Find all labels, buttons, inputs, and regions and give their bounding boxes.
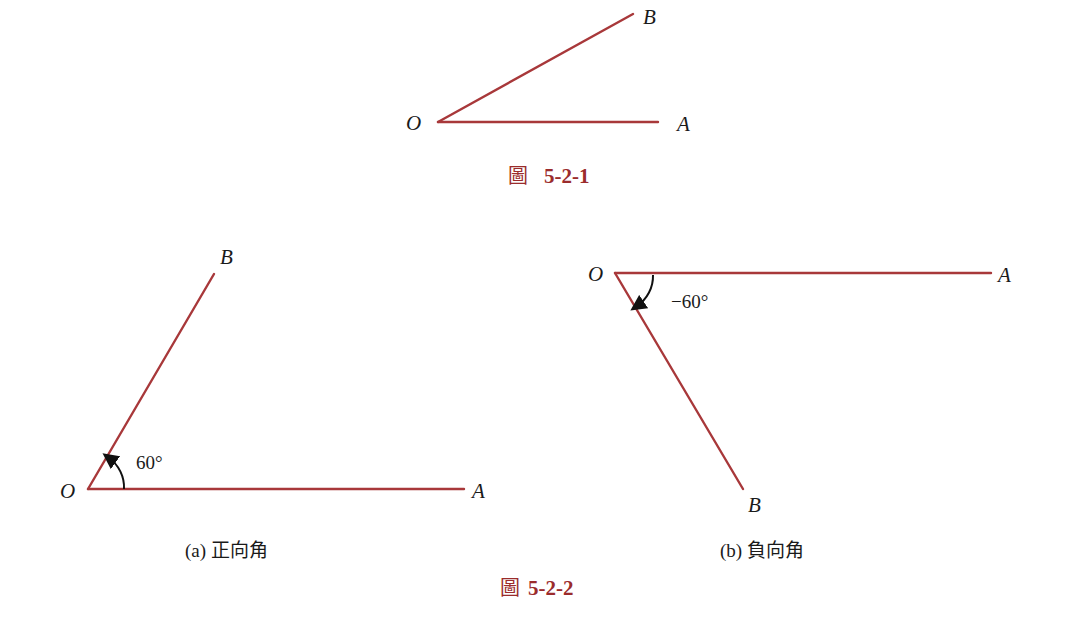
label-b: B — [643, 5, 656, 29]
panel-a-caption: (a) 正向角 — [185, 540, 268, 562]
angle-label: 60° — [136, 452, 163, 473]
angle-label: −60° — [671, 291, 708, 312]
figure-5-2-1: O A B 圖 5-2-1 — [406, 5, 690, 188]
figure-5-2-2a-positive-angle: 60° O A B (a) 正向角 — [60, 245, 485, 562]
label-b: B — [220, 245, 233, 269]
figure-5-2-2b-negative-angle: −60° O A B (b) 負向角 — [588, 262, 1011, 562]
label-o: O — [60, 479, 75, 503]
caption-prefix: 圖 — [508, 164, 528, 188]
caption-number: 5-2-2 — [528, 576, 574, 600]
panel-b-caption: (b) 負向角 — [720, 540, 804, 562]
label-o: O — [406, 111, 421, 135]
label-a: A — [996, 263, 1011, 287]
label-a: A — [470, 479, 485, 503]
label-a: A — [675, 112, 690, 136]
caption-prefix: 圖 — [500, 576, 520, 600]
angle-diagrams: O A B 圖 5-2-1 60° O A B (a) 正向角 −60° O A… — [0, 0, 1072, 635]
clockwise-arrow-icon — [637, 275, 653, 306]
figure-5-2-2-caption: 圖 5-2-2 — [500, 576, 574, 600]
caption-number: 5-2-1 — [544, 164, 590, 188]
label-o: O — [588, 262, 603, 286]
label-b: B — [748, 493, 761, 517]
ray-ob — [438, 14, 633, 122]
counterclockwise-arrow-icon — [109, 458, 124, 489]
